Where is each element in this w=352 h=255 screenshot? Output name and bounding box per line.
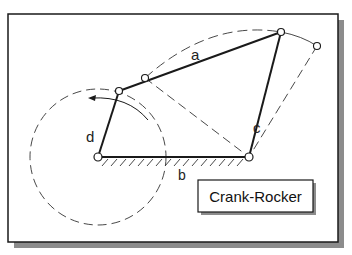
alt-crank-joint: [142, 75, 149, 82]
alt-rocker-joint: [314, 43, 321, 50]
ground-pivot-left: [94, 153, 102, 161]
ground-pivot-right: [245, 153, 253, 161]
crank-coupler-joint: [116, 88, 123, 95]
crank-rocker-diagram: d a c b Crank-Rocker: [0, 0, 352, 255]
label-rocker: c: [253, 119, 261, 136]
label-ground: b: [178, 167, 186, 183]
label-crank: d: [86, 128, 94, 145]
label-coupler: a: [191, 46, 200, 63]
caption-title: Crank-Rocker: [209, 188, 302, 205]
coupler-rocker-joint: [278, 29, 285, 36]
